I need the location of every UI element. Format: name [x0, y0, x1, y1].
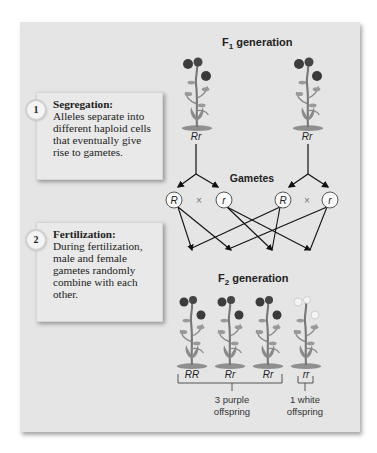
- svg-text:R: R: [279, 195, 286, 206]
- f2-plant: [177, 296, 207, 369]
- gamete: r: [216, 192, 232, 208]
- cross-diagram: F1 generation Rr Rr Gametes: [0, 0, 377, 453]
- f1-genotype-label: Rr: [302, 131, 313, 142]
- f2-genotype-label: RR: [185, 369, 199, 380]
- f2-plant: [253, 296, 283, 369]
- f2-genotype-label: Rr: [225, 369, 236, 380]
- f1-plant: [293, 58, 323, 132]
- white-offspring-label: offspring: [287, 406, 323, 417]
- f1-generation-label: F1 generation: [222, 36, 293, 51]
- fertilization-arrows: [178, 207, 327, 250]
- gamete: R: [275, 192, 291, 208]
- svg-text:R: R: [170, 195, 177, 206]
- gamete: R: [166, 192, 182, 208]
- f2-genotype-label: rr: [303, 369, 310, 380]
- f1-genotype-label: Rr: [191, 131, 202, 142]
- cross-symbol: ×: [196, 195, 202, 206]
- gametes-label: Gametes: [230, 172, 275, 184]
- f2-plant: [215, 296, 245, 369]
- f2-genotype-label: Rr: [263, 369, 274, 380]
- white-count-label: 1 white: [290, 394, 320, 405]
- cross-symbol: ×: [304, 195, 310, 206]
- gamete: r: [322, 192, 338, 208]
- f2-plant: [291, 297, 321, 370]
- purple-offspring-label: offspring: [214, 406, 250, 417]
- f2-generation-label: F2 generation: [218, 272, 289, 287]
- purple-count-label: 3 purple: [215, 394, 249, 405]
- f1-plant: [182, 58, 212, 132]
